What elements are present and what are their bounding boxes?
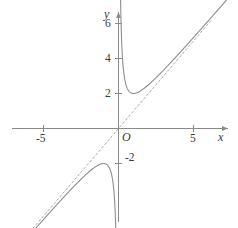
x-tick-label-5: 5	[190, 133, 196, 145]
y-tick-label-4: 4	[105, 53, 111, 65]
x-axis-label: x	[218, 131, 223, 143]
y-tick-label--2: -2	[125, 152, 135, 164]
y-axis-arrowhead	[116, 12, 121, 18]
plot-canvas	[0, 0, 238, 228]
y-tick-label-2: 2	[105, 88, 111, 100]
asymptote-y-equals-x	[24, 20, 212, 228]
y-tick-label-6: 6	[105, 18, 111, 30]
curve-right-branch	[120, 0, 232, 94]
origin-label: O	[122, 131, 131, 143]
function-graph-figure: y x O 6 4 2 -2 -5 5	[0, 0, 238, 228]
x-tick-label--5: -5	[36, 133, 46, 145]
